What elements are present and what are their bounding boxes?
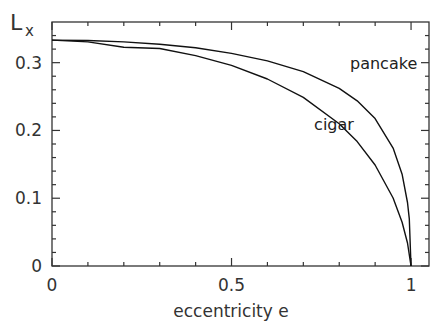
y-tick-label: 0.1 <box>15 188 42 208</box>
y-tick-label: 0.2 <box>15 120 42 140</box>
x-tick-label: 0.5 <box>218 275 245 295</box>
label-cigar: cigar <box>314 115 354 134</box>
y-axis-label-subscript: x <box>25 22 34 40</box>
x-axis-label: eccentricity e <box>173 301 288 321</box>
y-tick-label: 0 <box>31 256 42 276</box>
y-tick-label: 0.3 <box>15 53 42 73</box>
y-axis-label: L <box>10 10 23 35</box>
x-tick-label: 1 <box>406 275 417 295</box>
curve-cigar <box>52 40 411 266</box>
chart: 00.5100.10.20.3 pancakecigar L x eccentr… <box>0 0 445 334</box>
axis-tick-labels: 00.5100.10.20.3 <box>15 53 417 295</box>
curve-labels: pancakecigar <box>314 54 417 134</box>
curves <box>52 40 411 266</box>
x-tick-label: 0 <box>47 275 58 295</box>
label-pancake: pancake <box>350 54 417 73</box>
curve-pancake <box>52 40 411 266</box>
